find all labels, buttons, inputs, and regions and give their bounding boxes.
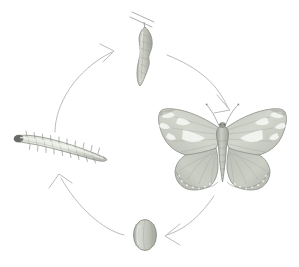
arrow-caterpillar-to-chrysalis: [55, 44, 114, 132]
antenna-club-left: [206, 104, 208, 106]
life-cycle-canvas: [0, 0, 299, 267]
caterpillar-stage: [14, 131, 107, 163]
twig-icon: [130, 12, 154, 27]
caterpillar-head: [14, 135, 23, 142]
butterfly-eye-right: [224, 124, 226, 126]
arrow-egg-to-caterpillar: [49, 174, 124, 235]
butterfly-life-cycle-diagram: [0, 0, 299, 267]
chrysalis-body: [137, 27, 152, 86]
butterfly-stage: [159, 104, 287, 191]
butterfly-thorax: [217, 126, 229, 182]
butterfly-eye-left: [220, 124, 222, 126]
arrow-chrysalis-to-butterfly: [167, 55, 230, 113]
antenna-club-right: [238, 104, 240, 106]
egg-stage: [134, 220, 157, 251]
arrow-butterfly-to-egg: [165, 196, 214, 245]
chrysalis-stage: [130, 12, 154, 86]
